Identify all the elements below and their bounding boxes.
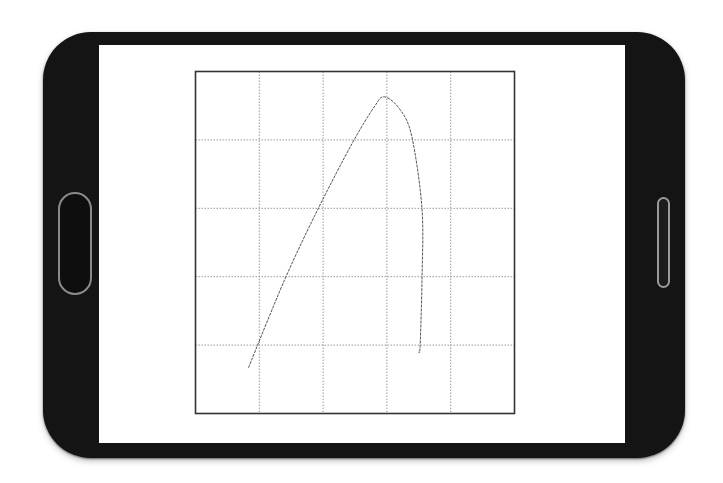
phone-body <box>43 32 685 458</box>
phone-screen <box>99 45 625 443</box>
home-button[interactable] <box>58 192 92 295</box>
speaker-slot-icon <box>657 197 670 288</box>
